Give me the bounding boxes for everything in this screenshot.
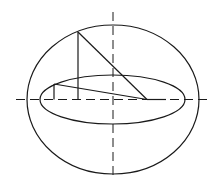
construction-lines [54,32,166,100]
diagram-canvas [0,0,216,189]
ellipse-construction-diagram [0,0,216,189]
